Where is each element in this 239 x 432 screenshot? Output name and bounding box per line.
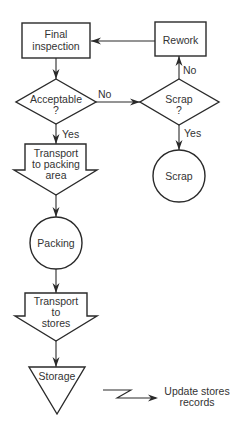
final-inspection-line1: Final (45, 28, 68, 40)
final-inspection-line2: inspection (32, 40, 79, 52)
node-transport-to-stores: Transport to stores (15, 293, 97, 341)
edge-acceptable-no: No (96, 88, 140, 106)
acceptable-line2: ? (53, 104, 59, 116)
update-records-line2: records (179, 396, 214, 408)
edge-label-yes: Yes (184, 127, 201, 139)
storage-label: Storage (39, 370, 76, 382)
node-packing: Packing (30, 217, 82, 269)
edge-inspection-to-acceptable (53, 58, 60, 79)
scrap-label: Scrap (165, 170, 193, 182)
transport-packing-line3: area (45, 169, 66, 181)
node-final-inspection: Final inspection (22, 23, 90, 58)
edge-acceptable-yes: Yes (53, 124, 80, 144)
node-storage: Storage (29, 367, 85, 414)
scrap-decision-line2: ? (176, 104, 182, 116)
edge-label-yes: Yes (62, 128, 79, 140)
edge-scrap-no: No (176, 56, 197, 79)
edge-rework-to-inspection (91, 38, 155, 45)
node-transport-to-packing: Transport to packing area (14, 144, 97, 195)
edge-scrap-yes: Yes (176, 125, 202, 150)
flowchart-canvas: Final inspection Rework Acceptable ? No … (0, 0, 239, 432)
node-update-stores-records: Update stores records (164, 385, 229, 408)
transport-stores-line3: stores (42, 317, 71, 329)
packing-label: Packing (37, 237, 75, 249)
edge-transport-to-packing (53, 195, 60, 217)
edge-transport-to-storage (53, 341, 60, 367)
edge-packing-to-transport (53, 269, 60, 293)
node-acceptable-decision: Acceptable ? (16, 79, 96, 124)
edge-label-no: No (98, 88, 112, 100)
edge-label-no: No (183, 64, 197, 76)
node-scrap-operation: Scrap (153, 150, 205, 202)
edge-information-flow (103, 390, 158, 402)
node-rework: Rework (155, 22, 206, 56)
node-scrap-decision: Scrap ? (140, 79, 219, 125)
rework-label: Rework (163, 34, 199, 46)
